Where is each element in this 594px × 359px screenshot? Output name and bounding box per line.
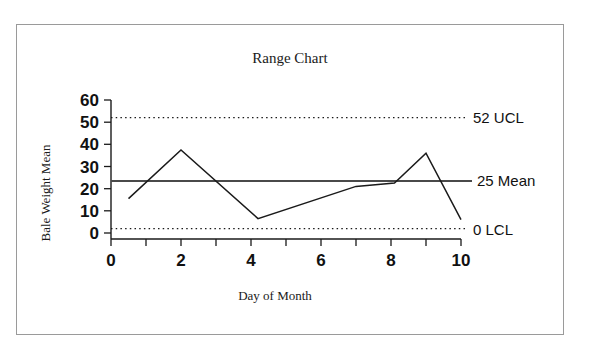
x-tick-labels: 0 2 4 6 8 10 [106,251,470,270]
x-tick-label: 8 [386,251,395,270]
y-tick-labels: 0 10 20 30 40 50 60 [80,91,99,243]
x-axis-label: Day of Month [238,288,312,303]
chart-page: Range Chart Bale Weight Mean Day of Mont… [0,0,594,359]
y-tick-label: 10 [80,202,99,221]
chart-frame: Range Chart Bale Weight Mean Day of Mont… [16,24,564,335]
chart-title: Range Chart [252,50,328,66]
x-tick-label: 0 [106,251,115,270]
data-series-line [129,150,462,220]
x-tick-marks [111,239,461,246]
right-annotations: 52 UCL 25 Mean 0 LCL [473,109,535,238]
y-tick-label: 40 [80,135,99,154]
x-tick-label: 4 [246,251,256,270]
ucl-label: 52 UCL [473,109,524,126]
x-tick-label: 2 [176,251,185,270]
mean-label: 25 Mean [477,172,535,189]
x-tick-label: 6 [316,251,325,270]
lcl-label: 0 LCL [473,221,513,238]
y-tick-label: 0 [90,224,99,243]
y-tick-label: 50 [80,113,99,132]
y-tick-label: 30 [80,158,99,177]
y-tick-label: 60 [80,91,99,110]
y-tick-label: 20 [80,180,99,199]
y-tick-marks [104,100,111,233]
range-chart-figure: Range Chart Bale Weight Mean Day of Mont… [17,25,563,334]
x-tick-label: 10 [452,251,471,270]
y-axis-label: Bale Weight Mean [38,144,53,241]
